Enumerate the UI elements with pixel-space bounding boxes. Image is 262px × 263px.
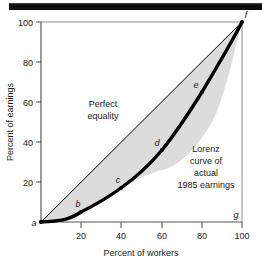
y-tick-label-80: 80: [23, 58, 33, 68]
lorenz-curve-figure: 100 80 60 40 20 20 40 60 80 100 Percent …: [0, 0, 262, 263]
x-tick-label-60: 60: [157, 231, 167, 241]
point-label-a: a: [31, 218, 36, 228]
data-point-a: [39, 220, 43, 224]
point-label-g: g: [233, 210, 238, 220]
x-tick-label-100: 100: [234, 231, 249, 241]
lorenz-annotation-line4: 1985 earnings: [177, 180, 235, 190]
data-point-c: [119, 186, 123, 190]
perfect-equality-annotation-line2: equality: [87, 111, 119, 121]
y-axis-ticks: [36, 22, 41, 182]
y-tick-label-100: 100: [18, 18, 33, 28]
chart-svg: 100 80 60 40 20 20 40 60 80 100 Percent …: [0, 0, 262, 263]
point-label-c: c: [116, 175, 121, 185]
y-tick-label-20: 20: [23, 178, 33, 188]
data-point-f: [240, 20, 244, 24]
y-tick-label-60: 60: [23, 98, 33, 108]
data-point-b: [79, 210, 83, 214]
x-tick-label-20: 20: [76, 231, 86, 241]
y-tick-label-40: 40: [23, 138, 33, 148]
x-axis-title: Percent of workers: [103, 248, 179, 258]
lorenz-annotation-line3: actual: [194, 168, 218, 178]
lorenz-annotation-line1: Lorenz: [192, 144, 220, 154]
x-tick-label-80: 80: [197, 231, 207, 241]
point-label-b: b: [75, 199, 80, 209]
data-point-e: [200, 90, 204, 94]
point-label-f: f: [245, 10, 249, 20]
data-point-d: [160, 148, 164, 152]
y-axis-title: Percent of earnings: [5, 82, 15, 161]
lorenz-annotation-line2: curve of: [190, 156, 223, 166]
point-label-e: e: [193, 80, 198, 90]
perfect-equality-annotation-line1: Perfect: [89, 99, 118, 109]
x-tick-label-40: 40: [116, 231, 126, 241]
x-axis-ticks: [81, 222, 242, 228]
